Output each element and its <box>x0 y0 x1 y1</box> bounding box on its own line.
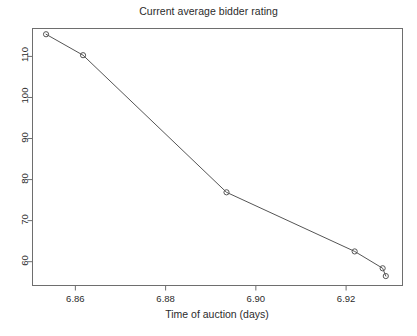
chart-figure: Current average bidder rating 6.866.886.… <box>0 0 417 336</box>
y-axis-tick-label: 80 <box>18 163 29 193</box>
y-axis-tick-label: 110 <box>18 40 29 70</box>
plot-area <box>0 0 417 336</box>
x-axis-tick-label: 6.92 <box>326 293 366 304</box>
y-axis-tick-label: 70 <box>18 204 29 234</box>
x-axis-label: Time of auction (days) <box>32 308 402 320</box>
x-axis-tick-label: 6.90 <box>236 293 276 304</box>
plot-border <box>33 29 403 286</box>
y-axis-tick-label: 60 <box>18 245 29 275</box>
x-axis-tick-label: 6.86 <box>55 293 95 304</box>
x-axis-tick-label: 6.88 <box>146 293 186 304</box>
y-axis-tick-label: 100 <box>18 81 29 111</box>
y-axis-tick-label: 90 <box>18 122 29 152</box>
series-line <box>46 34 386 276</box>
